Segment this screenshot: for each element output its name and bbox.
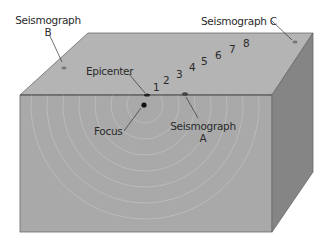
focus-label: Focus [94, 125, 123, 137]
wave-number-5: 5 [201, 56, 208, 67]
seismograph-c-label: Seismograph C [201, 15, 277, 27]
seismograph-a-label: Seismograph A [170, 120, 236, 144]
wave-number-1: 1 [153, 82, 160, 93]
wave-number-2: 2 [163, 75, 170, 86]
seismograph-b-label-line1: Seismograph [13, 14, 83, 26]
seismograph-a-label-line1: Seismograph [170, 120, 236, 132]
wave-number-6: 6 [215, 50, 222, 61]
seismograph-b-label: Seismograph B [13, 14, 83, 38]
wave-number-4: 4 [189, 62, 196, 73]
epicenter-marker [144, 93, 150, 96]
seismograph-b-label-line2: B [13, 26, 83, 38]
wave-number-3: 3 [176, 69, 183, 80]
seismic-wave-diagram: Seismograph B Seismograph C Epicenter Fo… [0, 0, 332, 243]
wave-number-7: 7 [229, 44, 236, 55]
seismograph-a-label-line2: A [170, 132, 236, 144]
seismograph-a-marker [182, 92, 188, 96]
seismograph-c-marker [292, 41, 297, 44]
wave-number-8: 8 [243, 38, 250, 49]
focus-dot [141, 102, 146, 107]
seismograph-b-marker [61, 67, 66, 70]
epicenter-label: Epicenter [86, 65, 133, 77]
block-front-face [20, 95, 272, 232]
